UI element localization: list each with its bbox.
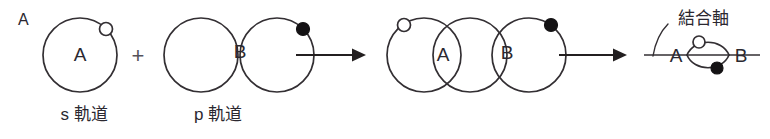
- overlap-group: [387, 18, 566, 92]
- s-orbital-letter: A: [74, 44, 87, 66]
- p-orbital-letter: B: [234, 41, 247, 63]
- plus-sign: +: [132, 43, 145, 68]
- bond-atom-b-letter: B: [735, 45, 748, 67]
- plus-sign-group: +: [132, 43, 145, 68]
- filled-circle-icon: [545, 19, 558, 32]
- filled-circle-icon: [711, 62, 723, 74]
- filled-circle-icon: [297, 23, 310, 36]
- open-circle-icon: [693, 36, 705, 48]
- overlap-atom-a-letter: A: [437, 44, 450, 66]
- reaction-arrow-1: [296, 49, 366, 62]
- open-circle-icon: [100, 23, 113, 36]
- arrow-head: [352, 49, 366, 62]
- diagram-canvas: +: [0, 0, 770, 139]
- p-orbital-lobe-left: [164, 18, 238, 92]
- annotation-leader-line: [653, 24, 668, 56]
- figure-label-a: A: [18, 11, 29, 29]
- orbital-bonding-diagram: +: [0, 0, 770, 139]
- bond-axis-annotation: 結合軸: [678, 4, 729, 29]
- overlap-atom-b-letter: B: [501, 42, 514, 64]
- open-circle-icon: [398, 19, 411, 32]
- s-orbital-caption: s 軌道: [60, 100, 107, 125]
- bond-atom-a-letter: A: [670, 45, 683, 67]
- reaction-arrow-2: [559, 49, 627, 62]
- p-orbital-caption: p 軌道: [194, 100, 242, 125]
- arrow-head: [613, 49, 627, 62]
